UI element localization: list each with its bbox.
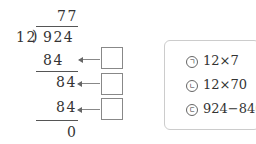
circled-letter-icon: ㄴ: [186, 80, 198, 92]
arrow-left-icon: [78, 109, 100, 110]
option-expression: 924−840: [203, 101, 256, 116]
step-3-value: 84: [56, 99, 77, 115]
division-bracket: ): [32, 28, 37, 44]
arrow-left-icon: [79, 59, 100, 60]
option-b: ㄴ12×70: [186, 77, 247, 92]
answer-box-3[interactable]: [101, 98, 123, 120]
step-1-value: 84: [43, 52, 64, 68]
option-a: ㄱ12×7: [186, 53, 239, 68]
circled-letter-icon: ㄷ: [186, 104, 198, 116]
dividend: 924: [43, 29, 74, 45]
quotient: 77: [57, 8, 78, 24]
circled-letter-icon: ㄱ: [186, 56, 198, 68]
step-2-value: 84: [56, 74, 77, 90]
subtract-line-2: [36, 120, 78, 121]
option-expression: 12×70: [203, 77, 247, 92]
remainder: 0: [67, 124, 77, 140]
option-c: ㄷ924−840: [186, 101, 256, 116]
division-bar: [36, 26, 78, 27]
arrow-left-icon: [78, 83, 100, 84]
answer-box-1[interactable]: [101, 47, 123, 69]
answer-box-2[interactable]: [101, 73, 123, 95]
subtract-line-1: [36, 71, 78, 72]
option-expression: 12×7: [203, 53, 239, 68]
